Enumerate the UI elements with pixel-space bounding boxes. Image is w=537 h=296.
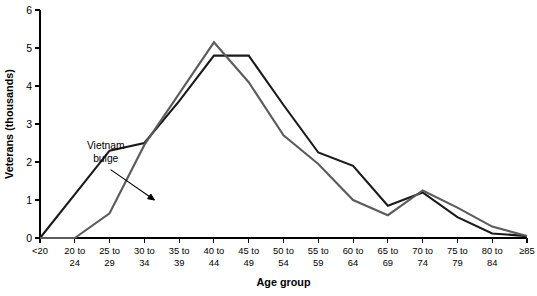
x-tick-label: 45 to [238,245,259,256]
x-tick-label-second-line: 24 [70,257,80,268]
x-tick-label-second-line: 29 [104,257,114,268]
x-tick-label: 20 to [64,245,85,256]
x-tick-label-second-line: 59 [313,257,323,268]
x-tick-label: ≥85 [519,245,535,256]
x-tick-label-second-line: 39 [174,257,184,268]
x-tick-label-second-line: 54 [278,257,288,268]
annotation-label-vietnam-bulge: bulge [93,153,118,164]
x-tick-label: 70 to [412,245,433,256]
y-tick-label: 0 [26,232,32,244]
y-tick-label: 6 [26,4,32,16]
chart-container: 0123456<2020 to2425 to2930 to3435 to3940… [0,0,537,296]
y-tick-label: 4 [26,80,32,92]
x-tick-label: 65 to [377,245,398,256]
annotation-arrowhead-vietnam-bulge [148,194,155,200]
x-tick-label: 30 to [134,245,155,256]
x-tick-label: 60 to [343,245,364,256]
x-tick-label: 35 to [169,245,190,256]
y-tick-label: 3 [26,118,32,130]
x-tick-label: 80 to [482,245,503,256]
x-tick-label: 25 to [99,245,120,256]
x-tick-label: <20 [32,245,48,256]
x-tick-label-second-line: 84 [487,257,497,268]
x-tick-label-second-line: 49 [243,257,253,268]
x-tick-label-second-line: 44 [209,257,219,268]
x-tick-label: 75 to [447,245,468,256]
annotation-label-vietnam-bulge: Vietnam [87,140,125,151]
x-tick-label-second-line: 34 [139,257,149,268]
y-axis-title: Veterans (thousands) [3,69,15,179]
y-tick-label: 1 [26,194,32,206]
y-tick-label: 5 [26,42,32,54]
x-tick-label: 40 to [203,245,224,256]
x-tick-label: 55 to [308,245,329,256]
x-tick-label-second-line: 74 [417,257,427,268]
line-chart: 0123456<2020 to2425 to2930 to3435 to3940… [0,0,537,296]
x-axis-title: Age group [257,276,311,288]
annotation-arrow-vietnam-bulge [111,170,155,200]
x-tick-label: 50 to [273,245,294,256]
x-tick-label-second-line: 69 [383,257,393,268]
x-tick-label-second-line: 79 [452,257,462,268]
x-tick-label-second-line: 64 [348,257,358,268]
y-tick-label: 2 [26,156,32,168]
